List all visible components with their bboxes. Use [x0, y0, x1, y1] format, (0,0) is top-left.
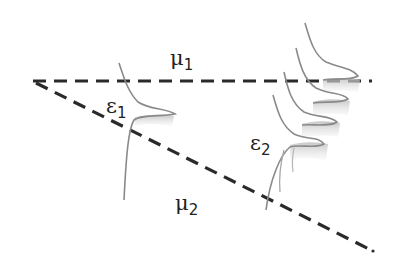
eps1-symbol: ε [106, 94, 117, 118]
eps1-distribution [119, 63, 175, 200]
diagram: μ1 ε1 ε2 μ2 [0, 0, 393, 273]
eps2-subscript: 2 [261, 141, 271, 159]
mu2-symbol: μ [175, 191, 189, 215]
mu2-label: μ2 [175, 193, 198, 218]
mu2-subscript: 2 [189, 201, 199, 219]
eps1-label: ε1 [106, 96, 126, 121]
diagram-canvas [0, 0, 393, 273]
mu1-subscript: 1 [184, 56, 194, 74]
mu1-symbol: μ [170, 46, 184, 70]
eps2-distributions [266, 23, 360, 210]
mu1-label: μ1 [170, 48, 193, 73]
eps2-label: ε2 [250, 133, 270, 158]
eps2-symbol: ε [250, 131, 261, 155]
eps1-subscript: 1 [117, 104, 127, 122]
